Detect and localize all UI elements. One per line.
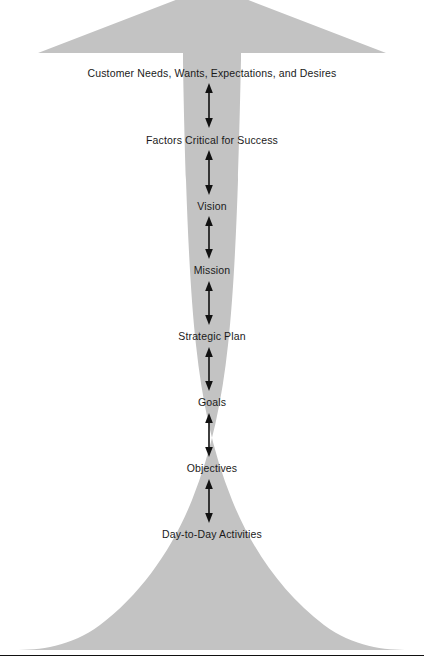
level-label-critical-factors: Factors Critical for Success	[0, 134, 424, 146]
footer-divider	[0, 655, 424, 656]
level-label-day-to-day-activities: Day-to-Day Activities	[0, 528, 424, 540]
level-label-goals: Goals	[0, 396, 424, 408]
funnel-diagram: Customer Needs, Wants, Expectations, and…	[0, 0, 424, 668]
funnel-arrow-shape	[14, 0, 410, 650]
level-label-mission: Mission	[0, 264, 424, 276]
level-label-strategic-plan: Strategic Plan	[0, 330, 424, 342]
level-label-objectives: Objectives	[0, 462, 424, 474]
level-label-customer-needs: Customer Needs, Wants, Expectations, and…	[0, 67, 424, 79]
level-label-vision: Vision	[0, 200, 424, 212]
